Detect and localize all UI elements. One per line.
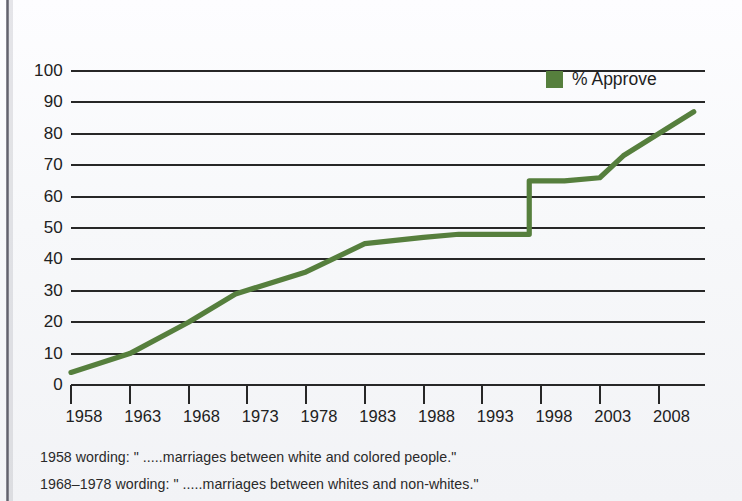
legend-label-percent-approve: % Approve [572,70,657,88]
series-line-percent-approve [71,112,694,373]
chart-footnotes: 1958 wording: " .....marriages between w… [40,444,700,498]
footnote-1958-wording: 1958 wording: " .....marriages between w… [40,444,700,471]
approval-line-chart: 1009080706050403020100 19581963196819731… [0,0,742,440]
footnote-1968-1978-wording: 1968–1978 wording: " .....marriages betw… [40,471,700,498]
legend-swatch-percent-approve [546,71,563,88]
plot-area [0,0,742,440]
chart-legend: % Approve [546,70,657,88]
